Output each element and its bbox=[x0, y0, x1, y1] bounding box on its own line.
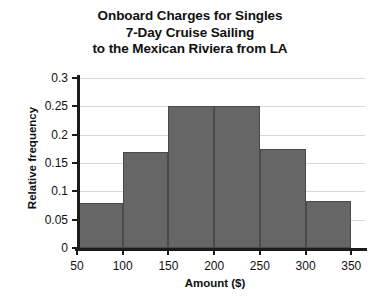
chart-title: Onboard Charges for Singles 7-Day Cruise… bbox=[0, 8, 380, 58]
histogram-bar bbox=[168, 106, 214, 248]
histogram-bar bbox=[123, 152, 169, 248]
gridline bbox=[77, 78, 365, 79]
y-axis-tick bbox=[72, 190, 78, 192]
y-axis-tick-label: 0.2 bbox=[51, 128, 68, 142]
x-axis-tick bbox=[213, 249, 215, 255]
x-axis-tick-label: 200 bbox=[204, 259, 224, 273]
x-axis-tick bbox=[305, 249, 307, 255]
x-axis-tick-label: 300 bbox=[296, 259, 316, 273]
x-axis-tick bbox=[122, 249, 124, 255]
plot-area: 00.050.10.150.20.250.3 50100150200250300… bbox=[77, 78, 365, 248]
y-axis-tick bbox=[72, 162, 78, 164]
x-axis-tick-label: 100 bbox=[113, 259, 133, 273]
y-axis-tick bbox=[72, 219, 78, 221]
x-axis-tick-label: 50 bbox=[70, 259, 83, 273]
x-axis-tick-label: 150 bbox=[158, 259, 178, 273]
y-axis-tick-label: 0.3 bbox=[51, 71, 68, 85]
x-axis-tick bbox=[76, 249, 78, 255]
histogram-bar bbox=[260, 149, 306, 248]
x-axis-line bbox=[75, 248, 367, 251]
histogram-bar bbox=[214, 106, 260, 248]
chart-title-line-1: Onboard Charges for Singles bbox=[0, 8, 380, 25]
x-axis-tick-label: 350 bbox=[341, 259, 361, 273]
chart-title-line-3: to the Mexican Riviera from LA bbox=[0, 41, 380, 58]
x-axis-tick bbox=[259, 249, 261, 255]
x-axis-tick-label: 250 bbox=[250, 259, 270, 273]
chart-title-line-2: 7-Day Cruise Sailing bbox=[0, 25, 380, 42]
y-axis-tick-label: 0.05 bbox=[45, 213, 68, 227]
x-axis-tick bbox=[350, 249, 352, 255]
y-axis-tick-label: 0.25 bbox=[45, 99, 68, 113]
histogram-bar bbox=[77, 203, 123, 248]
x-axis-label: Amount ($) bbox=[60, 277, 370, 289]
histogram-figure: Onboard Charges for Singles 7-Day Cruise… bbox=[0, 0, 380, 303]
y-axis-tick-label: 0 bbox=[61, 241, 68, 255]
y-axis-label: Relative frequency bbox=[26, 73, 38, 243]
y-axis-tick bbox=[72, 77, 78, 79]
y-axis-tick-label: 0.15 bbox=[45, 156, 68, 170]
histogram-bar bbox=[306, 201, 352, 248]
y-axis-tick bbox=[72, 105, 78, 107]
y-axis-tick bbox=[72, 134, 78, 136]
x-axis-tick bbox=[167, 249, 169, 255]
y-axis-tick-label: 0.1 bbox=[51, 184, 68, 198]
